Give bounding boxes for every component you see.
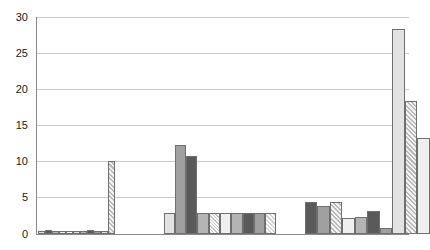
- bar-g3-9: [405, 101, 418, 234]
- bar-g3-3: [330, 202, 343, 234]
- bar-g3-10: [417, 138, 430, 233]
- bar-g1-11: [108, 161, 115, 234]
- bar-g3-5: [355, 217, 368, 234]
- bar-g3-6: [367, 211, 380, 233]
- bars-layer: [38, 17, 410, 234]
- plot-area: [36, 17, 409, 235]
- bar-g3-4: [342, 218, 355, 234]
- bar-g2-6: [220, 213, 231, 233]
- bar-g1-4: [59, 231, 66, 234]
- bar-g1-2: [45, 230, 52, 234]
- y-tick-label-30: 30: [0, 12, 32, 23]
- bar-g2-8: [243, 213, 254, 233]
- bar-g2-3: [186, 156, 197, 234]
- bar-g1-7: [80, 231, 87, 234]
- bar-g1-9: [94, 231, 101, 234]
- y-tick-label-15: 15: [0, 120, 32, 131]
- bar-g2-4: [197, 213, 208, 233]
- y-axis-tick-labels: 051015202530: [0, 17, 32, 235]
- bar-g2-5: [209, 213, 220, 233]
- bar-g3-2: [317, 206, 330, 233]
- bar-g2-9: [254, 213, 265, 233]
- y-tick-label-5: 5: [0, 192, 32, 203]
- bar-g1-5: [66, 231, 73, 234]
- bar-g1-3: [52, 231, 59, 234]
- bar-g1-1: [38, 231, 45, 234]
- y-tick-label-25: 25: [0, 48, 32, 59]
- bar-g1-8: [87, 230, 94, 234]
- y-tick-label-10: 10: [0, 156, 32, 167]
- bar-g1-6: [73, 231, 80, 234]
- bar-g2-1: [164, 213, 175, 234]
- bar-g3-7: [380, 228, 393, 234]
- y-tick-label-0: 0: [0, 228, 32, 239]
- bar-g3-8: [392, 29, 405, 234]
- bar-g2-7: [231, 213, 242, 233]
- bar-g2-2: [175, 145, 186, 233]
- bar-g3-1: [305, 202, 318, 233]
- bar-g1-10: [101, 231, 108, 234]
- y-tick-label-20: 20: [0, 84, 32, 95]
- bar-g2-10: [265, 213, 276, 233]
